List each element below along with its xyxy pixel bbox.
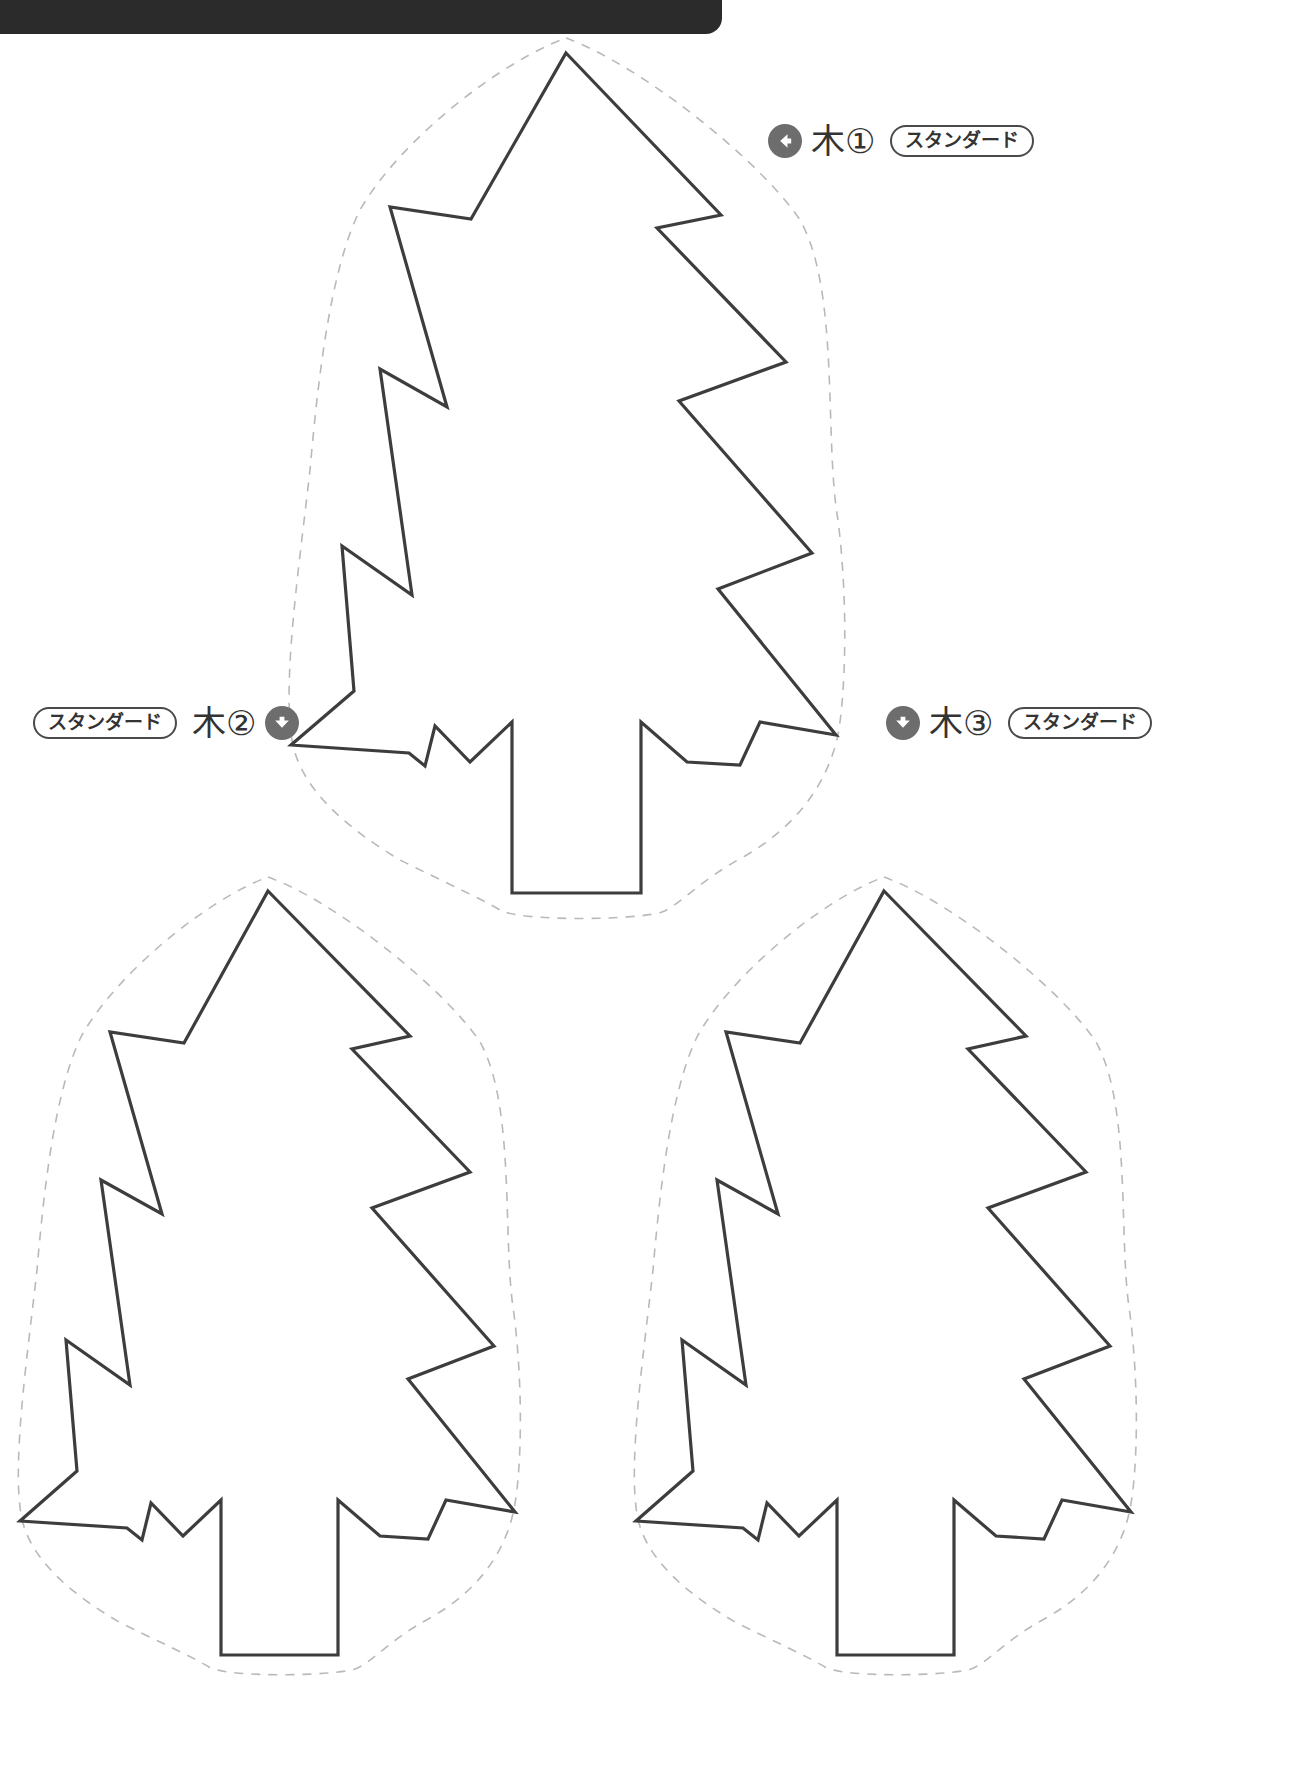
label-tree-1-title: 木① bbox=[811, 124, 875, 158]
arrow-down-icon bbox=[265, 706, 299, 740]
label-tree-3: 木③ スタンダード bbox=[886, 703, 1152, 743]
tree-templates-artwork bbox=[0, 0, 1308, 1779]
arrow-left-icon bbox=[768, 124, 802, 158]
tree-template-1-group bbox=[289, 38, 845, 919]
label-tree-1-badge: スタンダード bbox=[890, 125, 1034, 158]
label-tree-2-badge: スタンダード bbox=[33, 707, 177, 740]
tree-template-3-group bbox=[634, 877, 1136, 1675]
tree-2-outline bbox=[20, 891, 515, 1655]
template-page: 木① スタンダード スタンダード 木② 木③ スタンダード bbox=[0, 0, 1308, 1779]
label-tree-2: スタンダード 木② bbox=[33, 703, 299, 743]
tree-1-outline bbox=[291, 53, 836, 893]
label-tree-3-badge: スタンダード bbox=[1008, 707, 1152, 740]
tree-3-outline bbox=[636, 891, 1131, 1655]
label-tree-1: 木① スタンダード bbox=[768, 121, 1034, 161]
arrow-down-icon bbox=[886, 706, 920, 740]
label-tree-3-title: 木③ bbox=[929, 706, 993, 740]
tree-template-2-group bbox=[18, 877, 520, 1675]
label-tree-2-title: 木② bbox=[192, 706, 256, 740]
